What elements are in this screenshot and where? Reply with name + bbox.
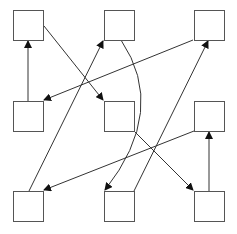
node-top-right bbox=[195, 11, 225, 41]
edge-middle-right-to-bottom-left bbox=[44, 131, 194, 190]
node-bottom-left bbox=[14, 192, 44, 222]
edge-top-left-to-middle-center bbox=[44, 26, 103, 100]
node-middle-center bbox=[105, 102, 135, 132]
directed-graph-diagram bbox=[0, 0, 237, 234]
node-middle-right bbox=[195, 102, 225, 132]
edge-top-right-to-middle-left bbox=[44, 40, 193, 100]
node-bottom-right bbox=[195, 192, 225, 222]
node-bottom-center bbox=[105, 192, 135, 222]
edge-middle-center-to-bottom-right bbox=[134, 131, 193, 190]
node-middle-left bbox=[14, 102, 44, 132]
node-top-center bbox=[105, 11, 135, 41]
node-top-left bbox=[14, 11, 44, 41]
